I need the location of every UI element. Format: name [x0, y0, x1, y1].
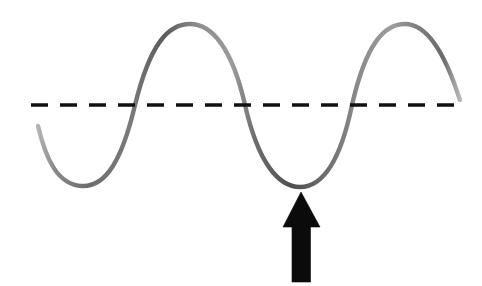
wave-diagram-svg: [0, 0, 482, 286]
wave-diagram-figure: A gray sine wave drawn across a white ba…: [0, 0, 482, 286]
figure-background: [0, 0, 482, 286]
